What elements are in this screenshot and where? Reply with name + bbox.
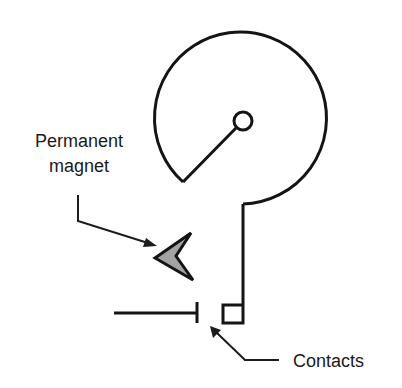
rotor-stem — [223, 204, 243, 323]
magnet-label-line1: Permanent — [35, 131, 123, 151]
arrowhead-icon — [143, 238, 157, 247]
reed-contact-diagram: Permanent magnet Contacts — [0, 0, 402, 388]
magnet-leader-arrow — [78, 195, 157, 247]
rotor-spoke — [183, 128, 236, 182]
pivot-circle-icon — [234, 112, 252, 130]
contacts-label: Contacts — [293, 351, 364, 371]
fixed-contact — [114, 302, 197, 323]
magnet-label-line2: magnet — [49, 156, 109, 176]
permanent-magnet-icon — [155, 233, 193, 280]
rotor-arm — [154, 32, 326, 323]
contacts-leader-arrow — [210, 326, 279, 360]
